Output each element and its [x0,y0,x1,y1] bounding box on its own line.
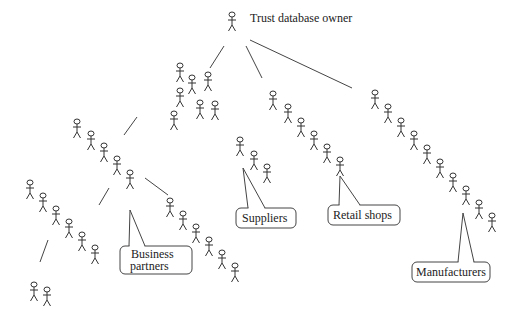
connector-line [145,178,168,195]
person-icon [397,118,405,137]
person-icon [371,90,379,109]
trust-hierarchy-diagram: Trust database owner Business partners S… [0,0,520,322]
person-icon [218,250,226,269]
person-icon [78,232,86,251]
connector-line [210,46,224,68]
person-icon [179,211,187,230]
person-icon [43,287,51,306]
person-icon [204,72,212,91]
group-business-partners-branch-a [73,119,134,189]
group-suppliers-branch [236,137,271,183]
person-icon [100,143,108,162]
person-icon [263,164,271,183]
person-icon [205,237,213,256]
person-icon [188,75,196,94]
group-root [228,12,236,31]
person-icon [410,131,418,150]
business-partners-label-line2: partners [130,259,169,273]
manufacturers-label: Manufacturers [416,265,486,279]
person-icon [488,213,496,232]
person-icon [236,137,244,156]
person-icon [26,180,34,199]
person-icon [91,245,99,264]
person-icon [73,119,81,138]
person-icon [176,88,184,107]
connector-line [246,46,262,78]
person-icon [310,131,318,150]
person-icon [475,200,483,219]
person-icon [87,131,95,150]
person-icon [126,170,134,189]
person-icon [462,186,470,205]
person-icon [113,156,121,175]
retail-shops-label: Retail shops [333,208,392,222]
connector-line [40,240,48,262]
person-icon [336,157,344,176]
person-icon [196,100,204,119]
root-label: Trust database owner [250,11,352,25]
group-upper-cluster [170,63,219,130]
connector-line [250,40,352,88]
person-icon [170,111,178,130]
person-icon [323,144,331,163]
person-icon [39,193,47,212]
person-icon [231,263,239,282]
person-icon [166,198,174,217]
person-icon [449,173,457,192]
person-icon [436,159,444,178]
connector-line [124,117,137,135]
suppliers-label: Suppliers [242,211,288,225]
person-icon [65,219,73,238]
person-icon [192,224,200,243]
person-icon [384,104,392,123]
person-icon [228,12,236,31]
person-icon [30,282,38,301]
group-business-partners-branch-b [26,180,99,264]
person-icon [176,63,184,82]
person-icon [211,101,219,120]
person-icon [52,206,60,225]
person-icon [250,151,258,170]
group-business-partners-branch-c [30,282,51,306]
person-icon [269,91,277,110]
person-icon [284,104,292,123]
connector-line [99,188,109,205]
person-icon [423,145,431,164]
person-icon [297,118,305,137]
group-retail-branch [269,91,344,176]
